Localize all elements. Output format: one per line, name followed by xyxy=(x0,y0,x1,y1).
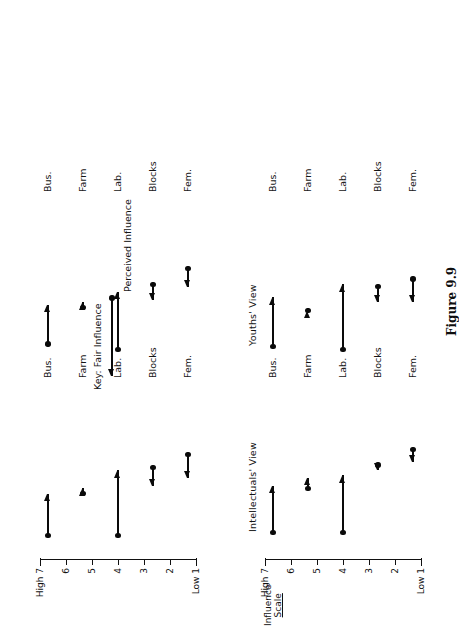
mark-stem xyxy=(111,298,113,376)
fair-influence-arrowhead xyxy=(108,369,114,376)
perceived-influence-dot xyxy=(109,295,114,300)
key-title: Key: Fair Influence xyxy=(92,304,103,391)
key-dot-end-label: Perceived Influence xyxy=(122,199,133,292)
figure-caption: Figure 9.9 xyxy=(445,267,459,336)
